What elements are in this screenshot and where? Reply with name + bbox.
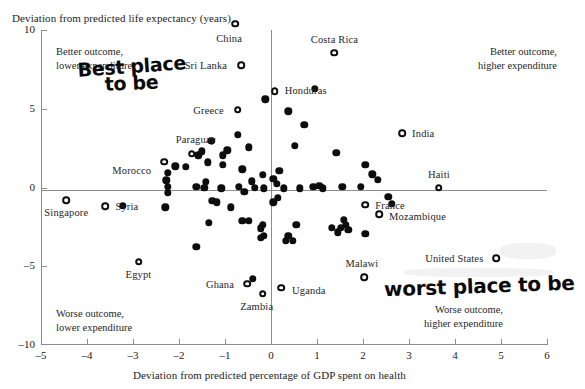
point-label-costa-rica: Costa Rica [311, 34, 358, 45]
data-point-malawi [360, 273, 368, 281]
data-point [161, 203, 168, 210]
data-point [219, 152, 226, 159]
y-tick-mark [41, 30, 47, 31]
data-point [282, 237, 289, 244]
point-label-united-states: United States [41, 253, 483, 264]
point-label-singapore: Singapore [44, 207, 88, 218]
y-tick-label: 5 [9, 102, 35, 114]
quadrant-note-top-right: Better outcome, higher expenditure [478, 45, 557, 73]
quadrant-note-bottom-left-line2: lower expenditure [56, 321, 132, 335]
data-point [291, 142, 298, 149]
x-tick-label: –4 [76, 349, 98, 361]
point-label-haiti: Haiti [428, 169, 450, 180]
quadrant-note-top-right-line1: Better outcome, [478, 45, 557, 59]
point-label-paraguay: Paraguay [176, 134, 216, 145]
y-tick-mark [41, 188, 47, 189]
quadrant-note-bottom-left-line1: Worse outcome, [56, 307, 132, 321]
data-point-singapore [63, 196, 71, 204]
y-tick-label: 0 [9, 181, 35, 193]
data-point-honduras [271, 88, 279, 96]
data-point [245, 217, 252, 224]
data-point-india [398, 129, 406, 137]
data-point-ghana [243, 280, 251, 288]
point-label-morocco: Morocco [41, 165, 151, 176]
x-tick-mark [271, 339, 272, 345]
data-point [213, 199, 220, 206]
y-tick-label: 10 [9, 23, 35, 35]
data-point [172, 163, 179, 170]
x-tick-label: –3 [122, 349, 144, 361]
point-label-ghana: Ghana [41, 279, 234, 290]
x-tick-mark [501, 339, 502, 345]
x-tick-label: –2 [168, 349, 190, 361]
point-label-china: China [216, 33, 242, 44]
x-tick-mark [41, 339, 42, 345]
x-tick-label: 3 [398, 349, 420, 361]
handwritten-best-place-line2: to be [104, 72, 187, 93]
x-tick-label: 4 [444, 349, 466, 361]
point-label-greece: Greece [41, 105, 224, 116]
data-point [198, 148, 205, 155]
data-point [259, 171, 266, 178]
x-tick-label: 2 [352, 349, 374, 361]
data-point-greece [234, 106, 242, 114]
horizontal-zero-reference-line [41, 190, 547, 191]
quadrant-note-top-right-line2: higher expenditure [478, 59, 557, 73]
data-point-morocco [160, 158, 168, 166]
data-point [257, 234, 264, 241]
data-point [164, 169, 171, 176]
data-point-syria [102, 203, 110, 211]
y-axis-title: Deviation from predicted life expectancy… [12, 12, 231, 24]
vertical-zero-reference-line [271, 30, 272, 345]
point-label-india: India [412, 128, 434, 139]
point-label-france: France [375, 200, 404, 211]
y-tick-label: –10 [9, 338, 35, 350]
data-point-china [231, 20, 239, 28]
x-tick-mark [363, 339, 364, 345]
scan-smudge [404, 268, 554, 277]
data-point [276, 167, 283, 174]
x-tick-mark [547, 339, 548, 345]
data-point-sri-lanka [237, 62, 245, 70]
scan-smudge [500, 243, 556, 259]
x-tick-label: 5 [490, 349, 512, 361]
data-point [227, 203, 234, 210]
data-point-uganda [277, 284, 285, 292]
quadrant-note-bottom-right: Worse outcome, higher expenditure [424, 303, 503, 331]
data-point [205, 219, 212, 226]
data-point [262, 96, 269, 103]
data-point [245, 144, 252, 151]
data-point-paraguay [188, 150, 196, 158]
x-axis-title: Deviation from predicted percentage of G… [133, 369, 406, 381]
x-tick-mark [133, 339, 134, 345]
quadrant-note-bottom-right-line2: higher expenditure [424, 317, 503, 331]
point-label-uganda: Uganda [292, 285, 326, 296]
quadrant-note-bottom-left: Worse outcome, lower expenditure [56, 307, 132, 335]
scatter-plot-figure: Deviation from predicted life expectancy… [0, 0, 585, 389]
data-point [362, 161, 369, 168]
data-point [219, 161, 226, 168]
point-label-syria: Syria [115, 201, 138, 212]
handwritten-annotation-best-place: Best place to be [77, 54, 188, 95]
data-point [239, 166, 246, 173]
data-point [182, 163, 189, 170]
data-point [193, 243, 200, 250]
x-tick-label: 0 [260, 349, 282, 361]
x-tick-mark [87, 339, 88, 345]
x-tick-mark [409, 339, 410, 345]
point-label-honduras: Honduras [285, 85, 327, 96]
data-point [293, 221, 300, 228]
data-point-zambia [259, 290, 267, 298]
data-point [345, 226, 352, 233]
data-point [204, 159, 211, 166]
x-tick-mark [225, 339, 226, 345]
point-label-zambia: Zambia [240, 301, 273, 312]
y-tick-label: –5 [9, 259, 35, 271]
data-point [333, 149, 340, 156]
data-point [234, 131, 241, 138]
data-point-france [362, 201, 370, 209]
data-point-mozambique [375, 210, 383, 218]
data-point-united-states [493, 255, 501, 263]
data-point [300, 121, 307, 128]
x-tick-mark [455, 339, 456, 345]
